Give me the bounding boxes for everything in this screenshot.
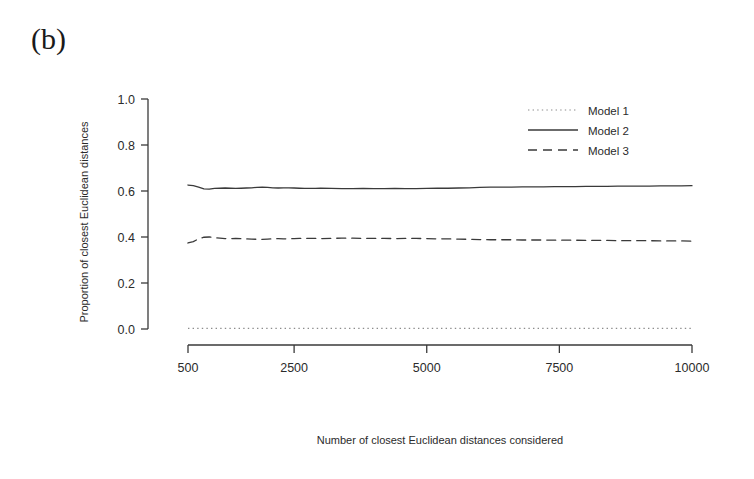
x-tick-label: 2500 xyxy=(280,361,308,375)
y-tick-label: 0.8 xyxy=(118,139,135,153)
x-tick-label: 7500 xyxy=(545,361,573,375)
legend-label: Model 3 xyxy=(588,145,629,157)
data-series-group xyxy=(188,185,692,328)
x-tick-label: 500 xyxy=(178,361,199,375)
x-axis: 50025005000750010000 xyxy=(178,345,710,375)
legend-label: Model 2 xyxy=(588,125,629,137)
y-tick-label: 1.0 xyxy=(118,93,135,107)
x-tick-label: 10000 xyxy=(675,361,710,375)
y-axis: 0.00.20.40.60.81.0 xyxy=(118,93,148,337)
y-tick-label: 0.2 xyxy=(118,277,135,291)
legend-label: Model 1 xyxy=(588,105,629,117)
chart-legend: Model 1Model 2Model 3 xyxy=(528,105,629,157)
line-chart-plot: 0.00.20.40.60.81.0 50025005000750010000 … xyxy=(0,0,754,479)
y-tick-label: 0.0 xyxy=(118,323,135,337)
series-line-model-2 xyxy=(188,185,692,189)
x-tick-label: 5000 xyxy=(413,361,441,375)
figure-panel-b: (b) Proportion of closest Euclidean dist… xyxy=(0,0,754,479)
y-tick-label: 0.6 xyxy=(118,185,135,199)
y-tick-label: 0.4 xyxy=(118,231,135,245)
series-line-model-3 xyxy=(188,237,692,243)
